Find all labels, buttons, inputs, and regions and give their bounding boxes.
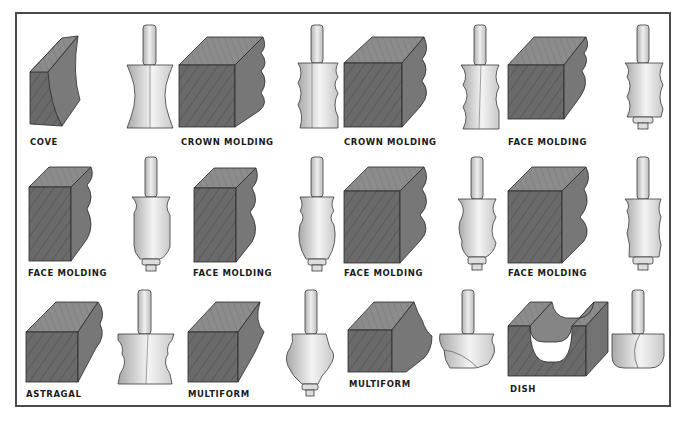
face-molding-4-router-bit-icon xyxy=(456,157,498,275)
face-molding-2-router-bit-icon xyxy=(130,157,172,275)
astragal-wood-block-icon xyxy=(26,302,106,384)
cove-router-bit-icon xyxy=(125,25,175,130)
multiform-1-router-bit-icon xyxy=(284,290,336,400)
crown-molding-2-wood-block-icon xyxy=(344,37,434,129)
label-dish: DISH xyxy=(510,384,536,394)
crown-molding-1-router-bit-icon xyxy=(296,25,340,130)
cove-wood-block-icon xyxy=(28,34,84,130)
astragal-router-bit-icon xyxy=(116,290,176,386)
multiform-2-router-bit-icon xyxy=(438,290,498,370)
multiform-2-wood-block-icon xyxy=(348,302,434,374)
face-molding-3-router-bit-icon xyxy=(296,157,338,275)
dish-wood-block-icon xyxy=(508,302,610,378)
face-molding-1-wood-block-icon xyxy=(508,37,592,121)
crown-molding-2-router-bit-icon xyxy=(459,25,501,130)
label-cove: COVE xyxy=(30,137,58,147)
face-molding-4-wood-block-icon xyxy=(344,167,436,265)
label-face-molding-3: FACE MOLDING xyxy=(193,268,272,278)
label-astragal: ASTRAGAL xyxy=(26,389,81,399)
face-molding-2-wood-block-icon xyxy=(29,167,95,263)
label-face-molding-1: FACE MOLDING xyxy=(508,137,587,147)
label-face-molding-5: FACE MOLDING xyxy=(508,268,587,278)
label-crown-molding-1: CROWN MOLDING xyxy=(181,137,274,147)
face-molding-5-wood-block-icon xyxy=(508,167,594,265)
label-multiform-1: MULTIFORM xyxy=(188,389,250,399)
multiform-1-wood-block-icon xyxy=(188,302,272,384)
face-molding-5-router-bit-icon xyxy=(623,157,665,275)
face-molding-3-wood-block-icon xyxy=(194,168,260,264)
crown-molding-1-wood-block-icon xyxy=(179,37,269,129)
face-molding-1-router-bit-icon xyxy=(623,25,665,137)
label-face-molding-2: FACE MOLDING xyxy=(28,268,107,278)
label-crown-molding-2: CROWN MOLDING xyxy=(344,137,437,147)
dish-router-bit-icon xyxy=(610,290,666,372)
label-multiform-2: MULTIFORM xyxy=(349,379,411,389)
label-face-molding-4: FACE MOLDING xyxy=(344,268,423,278)
